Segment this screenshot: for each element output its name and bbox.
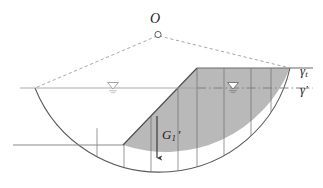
slice-weight-label: G1': [162, 128, 180, 143]
unshaded-region: [35, 88, 123, 145]
figure-canvas: [0, 0, 323, 188]
radius-line-left: [35, 36, 157, 88]
slice-weight-prime: ': [176, 127, 180, 142]
gamma-effective-label: γ': [300, 83, 308, 96]
center-of-rotation-label: O: [150, 12, 160, 26]
gamma-total-subscript: t: [305, 69, 308, 79]
slope-stability-figure: O G1' γt γ': [0, 0, 323, 188]
radius-line-right: [159, 36, 290, 68]
circle-marker-icon: [155, 31, 161, 37]
sliding-mass-shaded-region: [123, 68, 290, 152]
slice-weight-symbol: G: [162, 127, 171, 142]
gamma-total-label: γt: [300, 64, 308, 79]
